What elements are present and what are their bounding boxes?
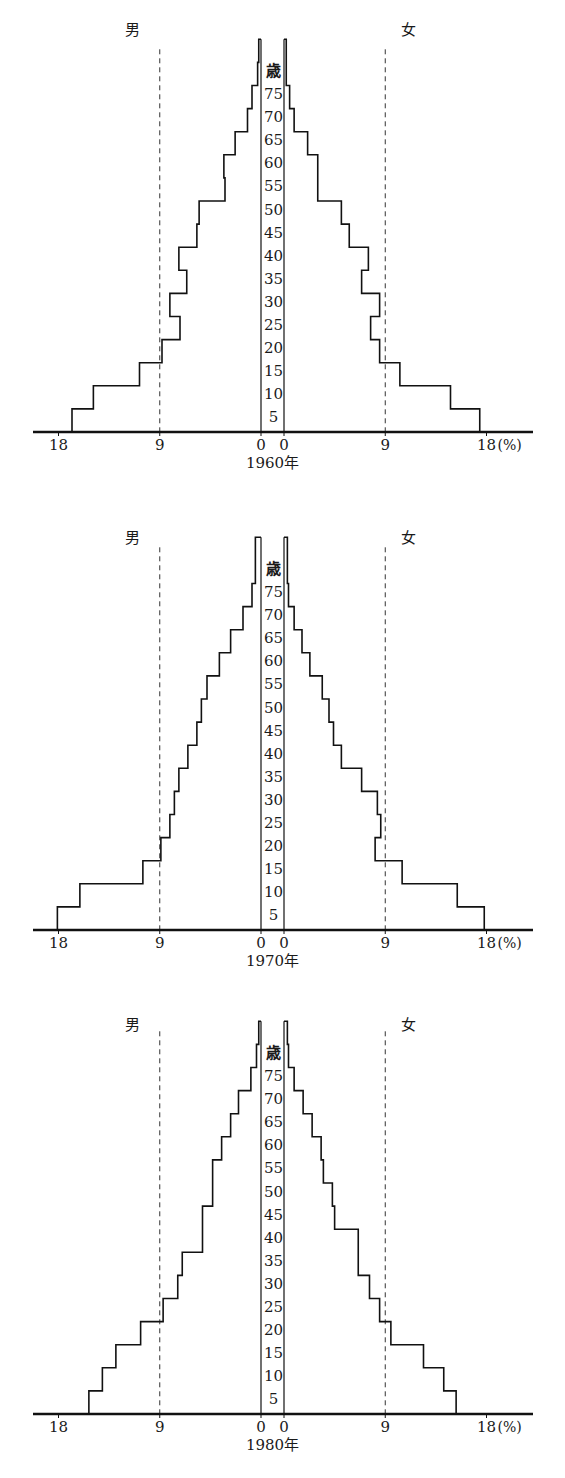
- age-tick-label: 25: [264, 1298, 283, 1316]
- age-tick-label: 65: [264, 629, 283, 647]
- pyramid-1970-svg: 男女51015202530354045505560657075歳18900918…: [0, 493, 565, 983]
- x-tick-label-female: 18: [477, 934, 496, 952]
- x-tick-label-male: 18: [49, 1418, 68, 1436]
- x-tick-label-male: 18: [49, 934, 68, 952]
- x-tick-label-male: 0: [256, 1418, 266, 1436]
- x-tick-label-female: 9: [380, 1418, 390, 1436]
- x-tick-label-male: 9: [155, 934, 165, 952]
- x-tick-label-male: 0: [256, 436, 266, 454]
- female-label: 女: [401, 1016, 416, 1034]
- age-tick-label: 50: [264, 1183, 283, 1201]
- age-tick-label: 45: [264, 224, 283, 242]
- age-tick-label: 75: [264, 583, 283, 601]
- age-tick-label: 5: [269, 408, 279, 426]
- x-tick-label-male: 9: [155, 1418, 165, 1436]
- age-tick-label: 65: [264, 131, 283, 149]
- male-population-outline: [89, 1021, 261, 1414]
- age-tick-label: 20: [264, 339, 283, 357]
- chart-year-title: 1980年: [246, 1436, 299, 1454]
- age-tick-label: 45: [264, 1206, 283, 1224]
- male-label: 男: [125, 21, 140, 39]
- x-tick-label-female: 0: [279, 934, 289, 952]
- age-tick-label: 25: [264, 814, 283, 832]
- age-tick-label: 35: [264, 1252, 283, 1270]
- age-tick-label: 35: [264, 768, 283, 786]
- age-tick-label: 20: [264, 1321, 283, 1339]
- pyramid-1970: 男女51015202530354045505560657075歳18900918…: [0, 493, 565, 983]
- pyramid-1980: 男女51015202530354045505560657075歳18900918…: [0, 983, 565, 1478]
- male-label: 男: [125, 529, 140, 547]
- x-tick-label-female: 0: [279, 436, 289, 454]
- age-axis-title: 歳: [266, 1044, 281, 1062]
- x-tick-label-male: 9: [155, 436, 165, 454]
- x-tick-label-female: 18: [477, 436, 496, 454]
- age-tick-label: 50: [264, 699, 283, 717]
- age-tick-label: 70: [264, 1090, 283, 1108]
- age-tick-label: 40: [264, 745, 283, 763]
- female-population-outline: [284, 1021, 456, 1414]
- male-population-outline: [57, 537, 261, 930]
- x-tick-label-female: 0: [279, 1418, 289, 1436]
- age-tick-label: 15: [264, 1344, 283, 1362]
- age-tick-label: 75: [264, 1067, 283, 1085]
- chart-year-title: 1970年: [246, 952, 299, 970]
- pyramid-1980-svg: 男女51015202530354045505560657075歳18900918…: [0, 983, 565, 1478]
- x-unit-label: (%): [498, 935, 522, 951]
- female-population-outline: [284, 537, 484, 930]
- female-label: 女: [401, 21, 416, 39]
- pyramid-1960: 男女51015202530354045505560657075歳18900918…: [0, 0, 565, 490]
- age-tick-label: 25: [264, 316, 283, 334]
- male-population-outline: [72, 39, 261, 432]
- age-tick-label: 5: [269, 1390, 279, 1408]
- age-tick-label: 75: [264, 85, 283, 103]
- age-tick-label: 40: [264, 247, 283, 265]
- age-tick-label: 60: [264, 154, 283, 172]
- age-tick-label: 55: [264, 1159, 283, 1177]
- age-tick-label: 55: [264, 675, 283, 693]
- x-tick-label-female: 9: [380, 934, 390, 952]
- age-tick-label: 70: [264, 606, 283, 624]
- x-tick-label-female: 9: [380, 436, 390, 454]
- age-tick-label: 10: [264, 883, 283, 901]
- age-tick-label: 50: [264, 201, 283, 219]
- age-tick-label: 30: [264, 293, 283, 311]
- age-tick-label: 10: [264, 1367, 283, 1385]
- x-tick-label-female: 18: [477, 1418, 496, 1436]
- age-tick-label: 20: [264, 837, 283, 855]
- age-tick-label: 65: [264, 1113, 283, 1131]
- age-tick-label: 70: [264, 108, 283, 126]
- age-tick-label: 30: [264, 791, 283, 809]
- chart-year-title: 1960年: [246, 454, 299, 472]
- age-tick-label: 55: [264, 177, 283, 195]
- age-tick-label: 35: [264, 270, 283, 288]
- age-axis-title: 歳: [266, 560, 281, 578]
- age-tick-label: 15: [264, 362, 283, 380]
- x-unit-label: (%): [498, 1419, 522, 1435]
- age-tick-label: 5: [269, 906, 279, 924]
- age-axis-title: 歳: [266, 62, 281, 80]
- age-tick-label: 60: [264, 1136, 283, 1154]
- age-tick-label: 45: [264, 722, 283, 740]
- x-unit-label: (%): [498, 437, 522, 453]
- age-tick-label: 60: [264, 652, 283, 670]
- pyramid-1960-svg: 男女51015202530354045505560657075歳18900918…: [0, 0, 565, 490]
- x-tick-label-male: 18: [49, 436, 68, 454]
- age-tick-label: 15: [264, 860, 283, 878]
- age-tick-label: 30: [264, 1275, 283, 1293]
- male-label: 男: [125, 1016, 140, 1034]
- age-tick-label: 40: [264, 1229, 283, 1247]
- female-label: 女: [401, 529, 416, 547]
- x-tick-label-male: 0: [256, 934, 266, 952]
- female-population-outline: [284, 39, 480, 432]
- age-tick-label: 10: [264, 385, 283, 403]
